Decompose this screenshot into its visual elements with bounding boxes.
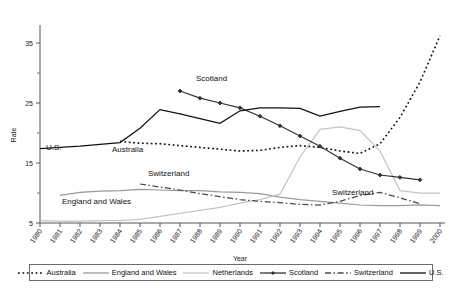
x-tick-label: 1995 (329, 227, 344, 244)
y-tick-label: 5 (29, 220, 33, 227)
legend-item-australia[interactable]: Australia (15, 268, 80, 277)
x-tick-label: 1982 (69, 227, 84, 244)
series-marker-scotland (238, 106, 242, 110)
series-marker-scotland (378, 173, 382, 177)
series-annotation: Switzerland (148, 169, 189, 178)
series-marker-scotland (218, 101, 222, 105)
legend-label: Scotland (289, 268, 322, 277)
legend-label: Australia (47, 268, 80, 277)
series-annotation: Switzerland (332, 188, 373, 197)
x-tick-label: 1986 (149, 227, 164, 244)
legend-swatch-icon (83, 269, 109, 277)
x-tick-label: 1991 (249, 227, 264, 244)
x-tick-label: 1992 (269, 227, 284, 244)
x-tick-label: 1988 (189, 227, 204, 244)
series-annotation: U.S. (46, 143, 62, 152)
x-tick-label: 1997 (369, 227, 384, 244)
legend-swatch-icon (183, 269, 209, 277)
legend-label: Switzerland (354, 268, 397, 277)
legend-swatch-icon (260, 269, 286, 277)
x-tick-label: 1996 (349, 227, 364, 244)
x-tick-label: 1990 (229, 227, 244, 244)
legend-item-scotland[interactable]: Scotland (257, 268, 322, 277)
x-tick-label: 1985 (129, 227, 144, 244)
x-tick-label: 1983 (89, 227, 104, 244)
x-tick-label: 1989 (209, 227, 224, 244)
x-tick-label: 1987 (169, 227, 184, 244)
series-annotation: England and Wales (62, 197, 131, 206)
x-tick-label: 1998 (389, 227, 404, 244)
legend-item-u-s-[interactable]: U.S. (397, 268, 448, 277)
legend-swatch-icon (18, 269, 44, 277)
x-tick-label: 2000 (429, 227, 444, 244)
series-marker-scotland (398, 176, 402, 180)
x-tick-label: 1993 (289, 227, 304, 244)
y-tick-label: 15 (25, 160, 33, 167)
y-tick-label: 25 (25, 100, 33, 107)
legend-label: U.S. (429, 268, 448, 277)
series-annotation: Scotland (196, 74, 227, 83)
series-line-australia (120, 36, 440, 154)
chart-container: 5152535Rate19801981198219831984198519861… (0, 0, 461, 293)
series-line-u-s- (40, 107, 380, 149)
line-chart: 5152535Rate19801981198219831984198519861… (0, 0, 461, 265)
legend-label: England and Wales (112, 268, 181, 277)
legend-label: Netherlands (212, 268, 256, 277)
y-tick-label: 35 (25, 40, 33, 47)
legend-swatch-icon (400, 269, 426, 277)
series-annotation: Australia (112, 145, 144, 154)
series-marker-scotland (178, 89, 182, 93)
series-marker-scotland (198, 96, 202, 100)
x-tick-label: 1980 (29, 227, 44, 244)
legend-item-netherlands[interactable]: Netherlands (180, 268, 256, 277)
chart-legend: AustraliaEngland and WalesNetherlandsSco… (29, 264, 433, 281)
legend-item-switzerland[interactable]: Switzerland (322, 268, 397, 277)
legend-item-england-and-wales[interactable]: England and Wales (80, 268, 181, 277)
x-tick-label: 1981 (49, 227, 64, 244)
y-axis-title: Rate (10, 128, 17, 143)
x-tick-label: 1994 (309, 227, 324, 244)
legend-swatch-icon (325, 269, 351, 277)
series-marker-scotland (418, 178, 422, 182)
x-axis-title: Year (233, 255, 248, 262)
x-tick-label: 1999 (409, 227, 424, 244)
x-tick-label: 1984 (109, 227, 124, 244)
